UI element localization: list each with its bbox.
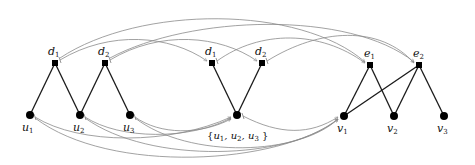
node-left-u1	[26, 111, 34, 119]
label-right-e1: e1	[364, 47, 375, 61]
label-left-u1: u1	[22, 121, 34, 135]
label-right-v1: v1	[337, 122, 348, 136]
node-left-d2	[102, 60, 108, 66]
label-left-d2: d2	[98, 45, 110, 59]
label-left-d1: d1	[48, 45, 60, 59]
node-left-u3	[126, 111, 134, 119]
label-right-v2: v2	[387, 122, 398, 136]
arc-tails	[34, 57, 268, 120]
graph-nodes	[26, 60, 448, 120]
graph-homomorphism-diagram: d1 d2 u1 u2 u3 d1 d2 {u1, u2, u3 } e1 e2…	[0, 0, 475, 165]
arc-Lu3-Mu	[135, 117, 231, 131]
label-mid-d1: d1	[205, 45, 217, 59]
node-mid-d2	[259, 60, 265, 66]
node-left-u2	[76, 111, 84, 119]
arc-Lu1-Rv1	[35, 118, 338, 157]
diagram-canvas: d1 d2 u1 u2 u3 d1 d2 {u1, u2, u3 } e1 e2…	[0, 0, 475, 165]
label-mid-d2: d2	[255, 45, 267, 59]
node-right-e1	[367, 62, 373, 68]
label-left-u3: u3	[123, 121, 135, 135]
arc-Ld1-Md1	[60, 39, 207, 61]
label-right-v3: v3	[437, 122, 448, 136]
node-mid-d1	[209, 60, 215, 66]
arc-Md2-Re2	[267, 35, 414, 63]
node-right-v3	[440, 112, 448, 120]
node-right-v2	[390, 112, 398, 120]
node-right-e2	[416, 62, 422, 68]
node-right-v1	[340, 112, 348, 120]
node-mid-u-set	[233, 111, 241, 119]
label-left-u2: u2	[73, 121, 85, 135]
node-left-d1	[52, 60, 58, 66]
label-mid-u-set: {u1, u2, u3 }	[207, 130, 268, 143]
graph-edges	[30, 63, 444, 116]
label-right-e2: e2	[413, 47, 424, 61]
